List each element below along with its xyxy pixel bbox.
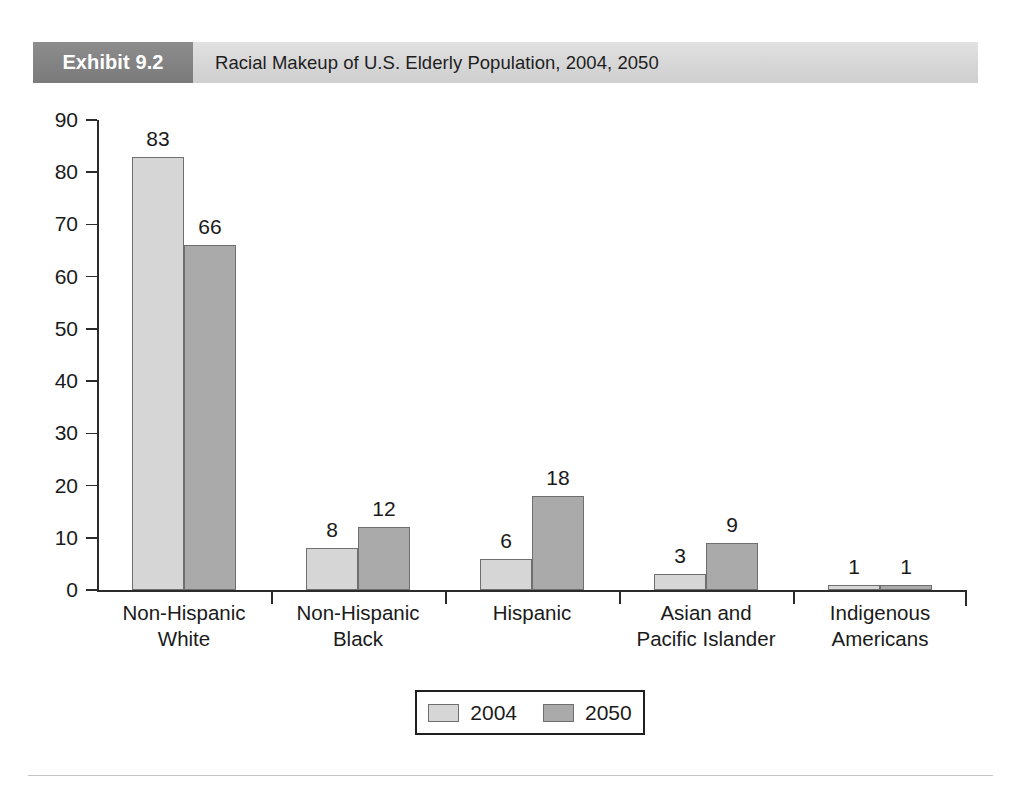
y-axis-tick	[86, 171, 97, 173]
y-axis-tick-label: 0	[34, 578, 78, 602]
legend-entry: 2004	[428, 701, 517, 725]
bar	[480, 559, 532, 590]
bar	[654, 574, 706, 590]
y-axis-tick	[86, 589, 97, 591]
bar-value-label: 1	[866, 555, 946, 579]
bar	[880, 585, 932, 590]
y-axis-tick	[86, 380, 97, 382]
legend-label: 2004	[470, 701, 517, 725]
legend-swatch	[428, 704, 459, 722]
y-axis-tick-label: 30	[34, 421, 78, 445]
legend-swatch	[543, 704, 574, 722]
bar	[306, 548, 358, 590]
exhibit-title: Racial Makeup of U.S. Elderly Population…	[193, 42, 659, 83]
y-axis-tick-label: 90	[34, 108, 78, 132]
bar-value-label: 83	[118, 127, 198, 151]
y-axis-tick	[86, 224, 97, 226]
y-axis-tick-label: 60	[34, 265, 78, 289]
y-axis-tick-label: 20	[34, 474, 78, 498]
y-axis-tick-label: 50	[34, 317, 78, 341]
bar	[184, 245, 236, 590]
category-label-line: Americans	[769, 626, 991, 652]
category-label-line: Indigenous	[769, 600, 991, 626]
exhibit-number-box: Exhibit 9.2	[33, 42, 193, 83]
bar-value-label: 9	[692, 513, 772, 537]
y-axis-tick	[86, 485, 97, 487]
bar	[358, 527, 410, 590]
exhibit-header: Exhibit 9.2 Racial Makeup of U.S. Elderl…	[33, 42, 978, 83]
legend-label: 2050	[585, 701, 632, 725]
bar-value-label: 66	[170, 215, 250, 239]
y-axis-tick	[86, 328, 97, 330]
y-axis-tick-label: 80	[34, 160, 78, 184]
y-axis-tick	[86, 119, 97, 121]
bar-value-label: 12	[344, 497, 424, 521]
x-axis-line	[97, 590, 967, 592]
chart-legend: 20042050	[415, 690, 645, 735]
bar	[532, 496, 584, 590]
y-axis-tick-label: 40	[34, 369, 78, 393]
legend-entry: 2050	[543, 701, 632, 725]
bar	[706, 543, 758, 590]
exhibit-number-label: Exhibit 9.2	[62, 51, 163, 74]
bar-chart: 0102030405060708090 83668126183911 Non-H…	[0, 95, 1021, 695]
page-divider-rule	[28, 775, 993, 776]
bar	[828, 585, 880, 590]
y-axis-line	[97, 120, 99, 590]
bar-value-label: 18	[518, 466, 598, 490]
y-axis-tick	[86, 537, 97, 539]
category-label: IndigenousAmericans	[769, 600, 991, 652]
y-axis-tick	[86, 276, 97, 278]
y-axis-tick-label: 10	[34, 526, 78, 550]
y-axis-tick-label: 70	[34, 212, 78, 236]
category-label-line: Black	[247, 626, 469, 652]
y-axis-tick	[86, 433, 97, 435]
